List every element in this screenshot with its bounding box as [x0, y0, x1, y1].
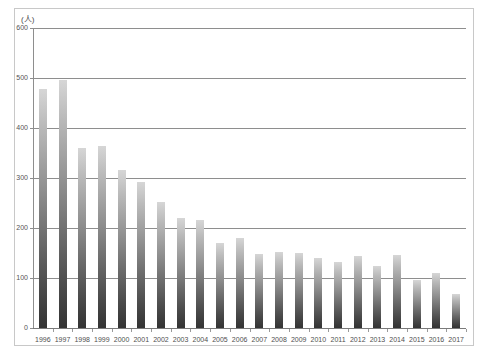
- bar-2001: [137, 182, 145, 328]
- x-tick-mark: [407, 329, 408, 332]
- x-tick-mark: [171, 329, 172, 332]
- bar-2004: [196, 220, 204, 328]
- x-tick-mark: [230, 329, 231, 332]
- x-tick-mark: [112, 329, 113, 332]
- bar-2013: [373, 266, 381, 328]
- y-tick-mark-500: [30, 78, 33, 79]
- y-tick-label: 300: [2, 174, 28, 181]
- bar-2000: [118, 170, 126, 328]
- x-tick-mark: [269, 329, 270, 332]
- x-tick-mark: [368, 329, 369, 332]
- y-tick-label: 200: [2, 224, 28, 231]
- bar-2012: [354, 256, 362, 328]
- x-tick-mark: [190, 329, 191, 332]
- y-tick-mark-0: [30, 328, 33, 329]
- x-tick-mark: [131, 329, 132, 332]
- bar-2006: [236, 238, 244, 328]
- y-axis-unit-label: (人): [21, 13, 34, 24]
- x-tick-mark: [309, 329, 310, 332]
- x-tick-label: 2017: [444, 336, 468, 343]
- bar-2017: [452, 294, 460, 328]
- y-tick-label: 0: [2, 324, 28, 331]
- x-tick-mark: [328, 329, 329, 332]
- y-tick-mark-400: [30, 128, 33, 129]
- y-tick-mark-100: [30, 278, 33, 279]
- y-tick-mark-200: [30, 228, 33, 229]
- bar-2003: [177, 218, 185, 328]
- x-tick-mark: [250, 329, 251, 332]
- bar-1998: [78, 148, 86, 328]
- bar-2009: [295, 253, 303, 328]
- x-tick-mark: [289, 329, 290, 332]
- bar-1996: [39, 89, 47, 328]
- x-tick-mark: [446, 329, 447, 332]
- bar-2015: [413, 280, 421, 328]
- bar-1999: [98, 146, 106, 328]
- y-tick-label: 400: [2, 124, 28, 131]
- gridline-400: [33, 128, 466, 129]
- bar-2005: [216, 243, 224, 328]
- bar-2002: [157, 202, 165, 328]
- x-tick-mark: [151, 329, 152, 332]
- bar-2007: [255, 254, 263, 328]
- x-tick-mark: [387, 329, 388, 332]
- bar-2014: [393, 255, 401, 328]
- y-tick-mark-300: [30, 178, 33, 179]
- bar-chart: (人) 0100200300400500600 1996199719981999…: [0, 0, 488, 360]
- x-tick-mark: [427, 329, 428, 332]
- x-tick-mark: [348, 329, 349, 332]
- gridline-500: [33, 78, 466, 79]
- bar-2010: [314, 258, 322, 328]
- y-tick-label: 100: [2, 274, 28, 281]
- x-tick-mark: [210, 329, 211, 332]
- gridline-600: [33, 28, 466, 29]
- y-tick-label: 600: [2, 24, 28, 31]
- bar-2016: [432, 273, 440, 328]
- x-tick-mark: [466, 329, 467, 332]
- y-tick-mark-600: [30, 28, 33, 29]
- x-tick-mark: [92, 329, 93, 332]
- x-tick-mark: [53, 329, 54, 332]
- bar-2008: [275, 252, 283, 328]
- y-tick-label: 500: [2, 74, 28, 81]
- bar-1997: [59, 80, 67, 328]
- bar-2011: [334, 262, 342, 328]
- x-tick-mark: [72, 329, 73, 332]
